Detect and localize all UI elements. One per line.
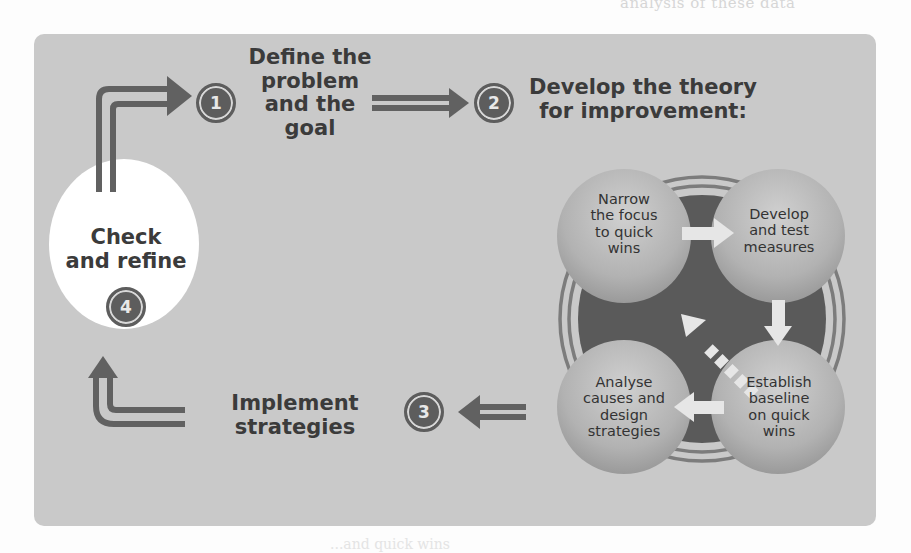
step-2-title: Develop the theory for improvement: xyxy=(518,76,768,123)
step-1-line-2: problem xyxy=(242,70,378,94)
step-1-badge: 1 xyxy=(196,83,236,123)
step-3-line-2: strategies xyxy=(220,416,370,440)
cycle-item-1-line-4: wins xyxy=(569,240,679,256)
cycle-item-4-line-3: design xyxy=(564,407,684,423)
step-4-line-2: and refine xyxy=(56,250,196,274)
arrow-1-to-2 xyxy=(372,98,454,108)
page-text-fragment-top: analysis of these data xyxy=(620,0,796,12)
cycle-item-4-line-1: Analyse xyxy=(564,374,684,390)
arrow-3-to-4 xyxy=(96,374,185,424)
cycle-item-develop-test: Develop and test measures xyxy=(724,206,834,255)
cycle-item-4-line-4: strategies xyxy=(564,423,684,439)
step-1-line-1: Define the xyxy=(242,46,378,70)
arrow-cycle-to-3 xyxy=(474,407,526,417)
step-1-line-3: and the goal xyxy=(242,93,378,140)
cycle-item-3-line-4: wins xyxy=(724,423,834,439)
cycle-item-4-line-2: causes and xyxy=(564,390,684,406)
cycle-item-1-line-1: Narrow xyxy=(569,191,679,207)
step-4-badge: 4 xyxy=(106,287,146,327)
step-2-badge: 2 xyxy=(474,83,514,123)
cycle-item-3-line-1: Establish xyxy=(724,374,834,390)
cycle-item-analyse-causes: Analyse causes and design strategies xyxy=(564,374,684,440)
arrow-head-to-3 xyxy=(458,395,480,429)
arrow-head-to-2 xyxy=(449,88,469,118)
arrow-head-to-1 xyxy=(167,76,192,116)
step-1-title: Define the problem and the goal xyxy=(242,46,378,140)
step-4-line-1: Check xyxy=(56,226,196,250)
arrow-head-to-4 xyxy=(88,356,118,378)
cycle-item-2-line-2: and test xyxy=(724,222,834,238)
cycle-item-1-line-3: to quick xyxy=(569,224,679,240)
cycle-item-2-line-1: Develop xyxy=(724,206,834,222)
cycle-item-3-line-3: on quick xyxy=(724,407,834,423)
step-3-line-1: Implement xyxy=(220,392,370,416)
step-2-line-2: for improvement: xyxy=(518,100,768,124)
improvement-cycle-diagram: 1 Define the problem and the goal 2 Deve… xyxy=(34,34,876,526)
step-3-badge: 3 xyxy=(404,392,444,432)
step-4-title: Check and refine xyxy=(56,226,196,273)
cycle-item-narrow-focus: Narrow the focus to quick wins xyxy=(569,191,679,257)
step-3-title: Implement strategies xyxy=(220,392,370,439)
cycle-item-1-line-2: the focus xyxy=(569,207,679,223)
page-text-fragment-bottom: ...and quick wins xyxy=(330,536,450,552)
step-2-line-1: Develop the theory xyxy=(518,76,768,100)
cycle-item-2-line-3: measures xyxy=(724,239,834,255)
cycle-item-establish-baseline: Establish baseline on quick wins xyxy=(724,374,834,440)
cycle-item-3-line-2: baseline xyxy=(724,390,834,406)
